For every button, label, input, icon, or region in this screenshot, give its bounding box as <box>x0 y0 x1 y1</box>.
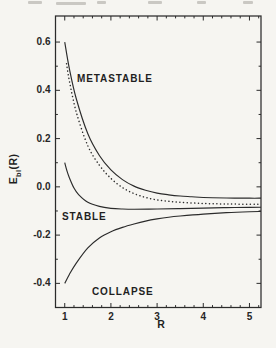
metastable-upper-curve <box>65 42 261 198</box>
x-tick-label: 2 <box>103 311 119 323</box>
axes-frame <box>56 16 262 308</box>
stable-curve <box>65 163 261 210</box>
figure-binding-energy-chart: Ebl(R) R METASTABLE STABLE COLLAPSE 1234… <box>0 0 276 348</box>
y-axis-subscript: bl <box>14 169 23 176</box>
x-tick-label: 5 <box>241 311 257 323</box>
label-collapse-region: COLLAPSE <box>92 286 154 297</box>
x-tick-label: 4 <box>195 311 211 323</box>
y-tick-label: 0.2 <box>17 133 51 145</box>
x-tick-label: 1 <box>57 311 73 323</box>
label-stable-region: STABLE <box>62 211 107 222</box>
metastable-dotted-curve <box>67 64 261 204</box>
y-tick-label: -0.2 <box>17 229 51 241</box>
x-tick-label: 3 <box>149 311 165 323</box>
y-tick-label: 0.6 <box>17 36 51 48</box>
y-axis-title-text: Ebl(R) <box>7 154 22 185</box>
collapse-curve <box>65 211 261 283</box>
label-metastable-region: METASTABLE <box>77 73 153 84</box>
y-tick-label: 0.0 <box>17 181 51 193</box>
y-tick-label: 0.4 <box>17 84 51 96</box>
y-axis-argument: (R) <box>7 154 19 170</box>
y-tick-label: -0.4 <box>17 277 51 289</box>
